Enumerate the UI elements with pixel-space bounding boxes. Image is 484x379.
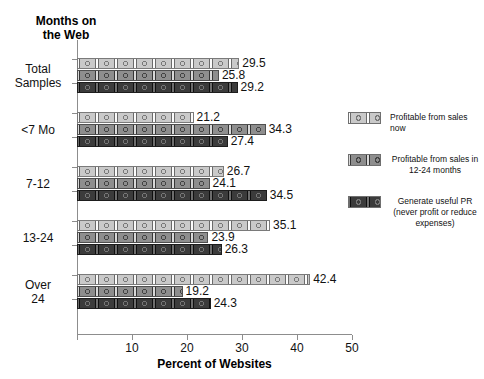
bar-value-label: 34.3 [269,124,292,135]
bar-value-label: 29.2 [241,82,264,93]
x-tick [352,335,353,340]
bar [77,166,224,177]
legend-swatch [348,112,381,124]
bar-value-label: 19.2 [186,286,209,297]
bar-value-label: 42.4 [313,274,336,285]
x-tick [77,335,78,340]
bar [77,112,194,123]
legend-label: Generate useful PR (never profit or redu… [390,196,480,229]
bar-value-label: 27.4 [231,136,254,147]
legend-item: Profitable from sales now [348,112,480,142]
bar [77,298,211,309]
x-tick [132,335,133,340]
legend-swatch [348,154,381,166]
bar-value-label: 34.5 [270,190,293,201]
category-label: Over 24 [4,278,72,306]
bar [77,136,228,147]
bar-value-label: 29.5 [242,58,265,69]
bar-value-label: 26.3 [225,244,248,255]
bar [77,190,267,201]
x-tick-label: 40 [282,341,312,355]
x-tick-label: 20 [172,341,202,355]
bar [77,244,222,255]
bar [77,178,210,189]
bar-value-label: 24.3 [214,298,237,309]
x-tick-label: 30 [227,341,257,355]
legend-label: Profitable from sales in 12-24 months [390,154,480,176]
bar [77,58,239,69]
bar-chart: Months on the Web 1020304050 Total Sampl… [0,0,484,379]
x-tick [242,335,243,340]
legend-item: Profitable from sales in 12-24 months [348,154,480,184]
legend-item: Generate useful PR (never profit or redu… [348,196,480,229]
bar-value-label: 35.1 [273,220,296,231]
x-tick-label: 50 [337,341,367,355]
x-tick-label: 10 [117,341,147,355]
x-tick [187,335,188,340]
x-tick [297,335,298,340]
legend-label: Profitable from sales now [390,112,480,134]
bar-value-label: 24.1 [213,178,236,189]
category-label: Total Samples [4,62,72,90]
category-label: <7 Mo [4,123,72,137]
chart-legend: Profitable from sales nowProfitable from… [348,112,480,241]
bar-value-label: 21.2 [197,112,220,123]
bar [77,220,270,231]
bar [77,70,219,81]
category-label: 7-12 [4,177,72,191]
y-axis-title: Months on the Web [14,14,118,42]
bar [77,232,208,243]
category-label: 13-24 [4,231,72,245]
x-axis-line [77,334,352,335]
bar [77,286,183,297]
bar [77,82,238,93]
x-axis-title: Percent of Websites [77,357,352,371]
legend-swatch [348,196,381,208]
